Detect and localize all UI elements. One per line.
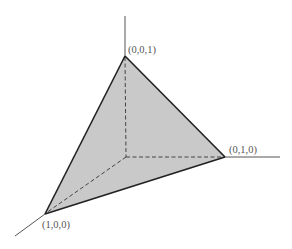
simplex-diagram: (0,0,1) (0,1,0) (1,0,0) [0, 0, 292, 249]
label-v010: (0,1,0) [229, 144, 257, 156]
x-axis [15, 214, 45, 236]
simplex-face [45, 56, 225, 214]
label-v100: (1,0,0) [42, 219, 70, 231]
label-v001: (0,0,1) [128, 44, 156, 56]
